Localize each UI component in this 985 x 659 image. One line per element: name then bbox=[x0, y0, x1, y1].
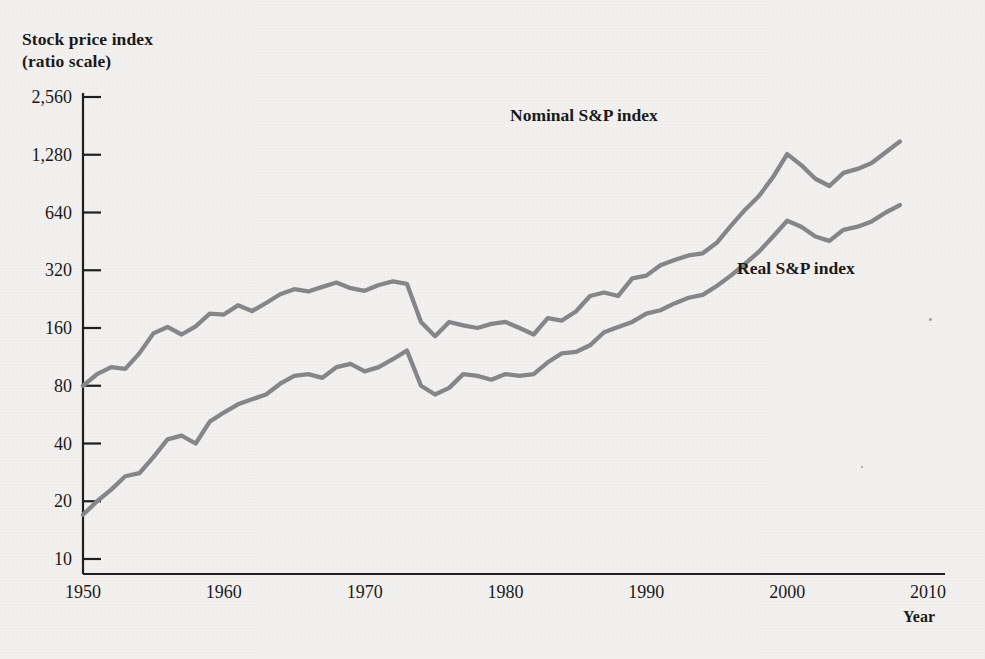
x-axis-tick-label: 2010 bbox=[910, 582, 946, 603]
series-label-nominal: Nominal S&P index bbox=[510, 105, 658, 126]
paper-speck bbox=[861, 466, 863, 468]
x-axis-tick-label: 1960 bbox=[206, 582, 242, 603]
y-axis-ticks bbox=[83, 97, 101, 559]
y-axis-tick-label: 80 bbox=[0, 375, 72, 396]
y-axis-tick-label: 160 bbox=[0, 318, 72, 339]
y-axis-tick-label: 10 bbox=[0, 549, 72, 570]
y-axis-tick-label: 320 bbox=[0, 260, 72, 281]
y-axis-title: Stock price index(ratio scale) bbox=[22, 28, 153, 73]
x-axis-tick-label: 1980 bbox=[488, 582, 524, 603]
y-axis-tick-label: 20 bbox=[0, 491, 72, 512]
y-axis-title-line1: Stock price index bbox=[22, 29, 153, 49]
y-axis-tick-label: 2,560 bbox=[0, 87, 72, 108]
chart-figure: Stock price index(ratio scale) 102040801… bbox=[0, 0, 985, 659]
x-axis-tick-label: 1950 bbox=[65, 582, 101, 603]
x-axis-tick-label: 1990 bbox=[628, 582, 664, 603]
x-axis-tick-label: 2000 bbox=[769, 582, 805, 603]
y-axis-tick-label: 640 bbox=[0, 202, 72, 223]
x-axis-title: Year bbox=[903, 608, 935, 626]
paper-speck bbox=[929, 318, 932, 321]
y-axis-title-line2: (ratio scale) bbox=[22, 51, 111, 71]
series-label-real: Real S&P index bbox=[737, 258, 855, 279]
y-axis-tick-label: 40 bbox=[0, 433, 72, 454]
chart-plot-area bbox=[0, 0, 985, 659]
x-axis-tick-label: 1970 bbox=[347, 582, 383, 603]
series-line-real bbox=[83, 205, 900, 515]
y-axis-tick-label: 1,280 bbox=[0, 144, 72, 165]
